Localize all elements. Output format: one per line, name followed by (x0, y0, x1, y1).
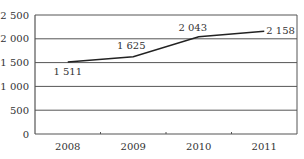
data-series (68, 31, 265, 62)
data-label: 1 511 (53, 66, 82, 77)
x-tick-label: 2010 (186, 141, 211, 152)
x-tick-label: 2009 (121, 141, 146, 152)
line-chart: 05001 0001 5002 0002 500 200820092010201… (0, 0, 304, 159)
data-label: 1 625 (117, 40, 146, 51)
y-axis-tick-labels: 05001 0001 5002 0002 500 (0, 10, 29, 140)
data-labels: 1 5111 6252 0432 158 (53, 22, 294, 77)
y-tick-label: 2 000 (0, 33, 29, 44)
x-tick-label: 2011 (252, 141, 277, 152)
x-tick-label: 2008 (55, 141, 80, 152)
y-tick-label: 0 (23, 129, 29, 140)
x-axis-tick-labels: 2008200920102011 (55, 141, 277, 152)
data-label: 2 043 (178, 22, 207, 33)
data-label: 2 158 (266, 25, 295, 36)
y-tick-label: 500 (10, 105, 29, 116)
y-tick-label: 1 500 (0, 57, 29, 68)
chart-canvas: 05001 0001 5002 0002 500 200820092010201… (0, 0, 304, 159)
y-tick-label: 1 000 (0, 81, 29, 92)
series-line (68, 31, 265, 62)
y-tick-label: 2 500 (0, 10, 29, 21)
